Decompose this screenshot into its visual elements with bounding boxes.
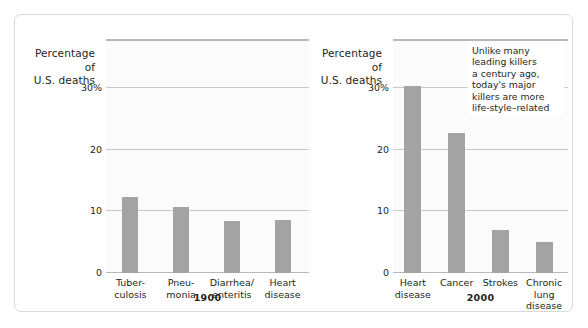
figure-frame: Percentage of U.S. deaths 30%20100 Tuber… [14,14,573,312]
gridline-30pct: 30% [106,87,309,88]
bar [122,197,138,273]
y-tick-label: 0 [383,266,389,277]
gridline-20: 20 [106,149,309,150]
year-label-2000: 2000 [393,292,568,303]
bar [492,230,509,273]
y-tick-label: 20 [377,143,389,154]
y-tick-label: 10 [90,205,102,216]
bar [536,242,553,273]
y-tick-label: 10 [377,205,389,216]
chart-1900: Percentage of U.S. deaths 30%20100 Tuber… [15,15,309,313]
bar [275,220,291,273]
bar [404,86,421,273]
y-tick-label: 30% [81,82,102,93]
annotation-note-2000: Unlike many leading killers a century ag… [468,43,564,116]
chart-2000: Percentage of U.S. deaths 30%20100 Unlik… [294,15,574,313]
year-label-1900: 1900 [106,292,309,303]
bar [173,207,189,274]
chart-panel-group: Percentage of U.S. deaths 30%20100 Tuber… [15,15,572,311]
y-tick-label: 20 [90,143,102,154]
plot-area-1900: 30%20100 [106,39,309,273]
bar [224,221,240,273]
bar [448,133,465,273]
y-tick-label: 30% [368,82,389,93]
y-tick-label: 0 [96,266,102,277]
